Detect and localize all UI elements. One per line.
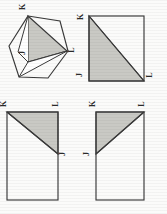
label-j: J	[59, 152, 67, 156]
diagram-canvas: K L J K J L K L J K L J	[0, 0, 167, 214]
label-l: L	[138, 101, 146, 106]
figure-rect-bottom-right: K L J	[96, 112, 144, 200]
label-k: K	[19, 4, 27, 10]
label-j: J	[83, 152, 91, 156]
label-k: K	[89, 101, 97, 107]
label-l: L	[68, 47, 76, 52]
rect-bl-drawing	[7, 112, 58, 200]
figure-rect-top-right: K J L	[89, 16, 144, 81]
figure-hexagon: K L J	[6, 12, 72, 84]
hexagon-drawing	[6, 12, 72, 84]
figure-rect-bottom-left: K L J	[7, 112, 58, 200]
label-k: K	[77, 14, 85, 20]
label-j: J	[76, 73, 84, 77]
label-k: K	[0, 101, 8, 107]
rect-tr-drawing	[89, 16, 144, 81]
label-l: L	[146, 72, 154, 77]
label-l: L	[52, 101, 60, 106]
shaded-triangle	[28, 16, 67, 62]
rect-br-drawing	[96, 112, 144, 200]
label-j: J	[19, 51, 27, 55]
